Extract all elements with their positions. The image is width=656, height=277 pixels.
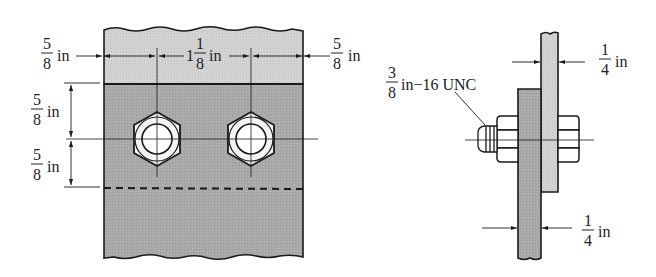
svg-text:8: 8 bbox=[196, 55, 204, 72]
thread-leader-line bbox=[455, 92, 485, 125]
nut-side bbox=[497, 116, 518, 162]
svg-text:in: in bbox=[57, 47, 69, 64]
svg-text:5: 5 bbox=[33, 91, 41, 108]
vertical-dimension bbox=[64, 83, 100, 187]
svg-text:8: 8 bbox=[388, 84, 396, 101]
svg-text:8: 8 bbox=[33, 166, 41, 183]
svg-text:1: 1 bbox=[196, 35, 204, 52]
svg-text:in: in bbox=[615, 53, 627, 70]
side-view: 3 8 in−16 UNC 1 4 in 1 4 in bbox=[386, 32, 627, 259]
svg-text:in: in bbox=[47, 158, 59, 175]
svg-text:in: in bbox=[209, 47, 221, 64]
svg-text:8: 8 bbox=[43, 55, 51, 72]
svg-text:in−16 UNC: in−16 UNC bbox=[401, 76, 476, 93]
svg-text:1: 1 bbox=[601, 41, 609, 58]
bottom-plate-side bbox=[518, 89, 541, 260]
svg-text:5: 5 bbox=[333, 35, 341, 52]
top-plate-side bbox=[541, 32, 558, 192]
bottom-plate-thickness-label: 1 4 in bbox=[582, 212, 610, 249]
dim-label-top-to-center: 5 8 in bbox=[31, 91, 59, 128]
svg-text:5: 5 bbox=[33, 146, 41, 163]
dim-label-right-edge: 5 8 in bbox=[331, 35, 360, 72]
top-plate-thickness-label: 1 4 in bbox=[599, 41, 627, 78]
svg-text:in: in bbox=[47, 103, 59, 120]
bolt-head-side bbox=[558, 116, 579, 162]
svg-text:1: 1 bbox=[186, 47, 194, 64]
dim-label-center-to-overlap: 5 8 in bbox=[31, 146, 59, 183]
svg-text:in: in bbox=[598, 223, 610, 240]
dim-label-left-edge: 5 8 in bbox=[41, 35, 69, 72]
bottom-plate-front bbox=[104, 84, 303, 259]
bolted-joint-figure: 5 8 in 1 1 8 in 5 8 in 5 8 in 5 bbox=[0, 0, 656, 277]
svg-text:in: in bbox=[348, 47, 360, 64]
svg-text:8: 8 bbox=[333, 55, 341, 72]
thread-callout-label: 3 8 in−16 UNC bbox=[386, 64, 476, 101]
svg-text:4: 4 bbox=[584, 232, 592, 249]
hidden-edge-dashed-line bbox=[104, 188, 303, 189]
svg-text:4: 4 bbox=[601, 61, 609, 78]
thread-end-side bbox=[478, 126, 497, 152]
svg-text:3: 3 bbox=[388, 64, 396, 81]
svg-text:1: 1 bbox=[584, 212, 592, 229]
svg-text:5: 5 bbox=[43, 35, 51, 52]
svg-text:8: 8 bbox=[33, 111, 41, 128]
front-view: 5 8 in 1 1 8 in 5 8 in 5 8 in 5 bbox=[31, 27, 360, 260]
